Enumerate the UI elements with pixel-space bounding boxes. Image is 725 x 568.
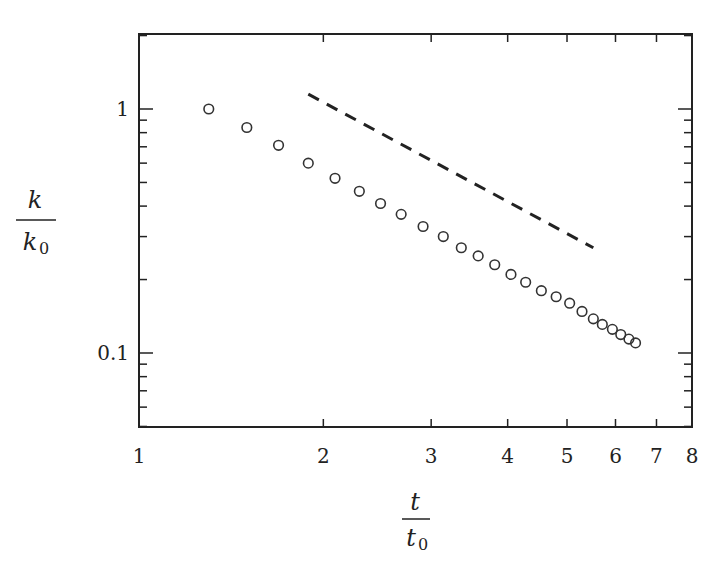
x-tick-label: 6 xyxy=(609,444,622,468)
data-point-marker xyxy=(418,222,428,232)
data-point-marker xyxy=(598,320,608,330)
data-point-marker xyxy=(204,104,214,114)
data-point-marker xyxy=(396,210,406,220)
y-axis-label: k k 0 xyxy=(16,186,56,258)
x-tick-label: 8 xyxy=(686,444,699,468)
chart: 1234567810.1 k k 0 t t 0 xyxy=(0,0,725,568)
data-point-marker xyxy=(537,286,547,296)
reference-dashed-line xyxy=(308,94,593,248)
data-point-marker xyxy=(521,277,531,287)
x-tick-label: 3 xyxy=(425,444,438,468)
x-tick-label: 2 xyxy=(317,444,330,468)
tick-labels: 1234567810.1 xyxy=(97,97,698,468)
data-point-marker xyxy=(506,270,516,280)
x-axis-label: t t 0 xyxy=(402,488,430,554)
y-label-numerator: k xyxy=(28,186,43,214)
y-tick-label: 1 xyxy=(116,97,129,121)
y-label-denominator: k xyxy=(23,228,38,256)
data-point-marker xyxy=(438,232,448,242)
y-tick-label: 0.1 xyxy=(97,341,129,365)
data-point-marker xyxy=(274,140,284,150)
x-tick-label: 4 xyxy=(501,444,514,468)
y-label-denominator-sub: 0 xyxy=(39,239,49,258)
dashed-reference-line xyxy=(308,94,593,248)
plot-frame xyxy=(139,34,692,427)
x-tick-label: 7 xyxy=(650,444,663,468)
data-point-marker xyxy=(589,314,599,324)
data-point-marker xyxy=(577,307,587,317)
data-point-marker xyxy=(242,123,252,133)
axis-ticks xyxy=(139,34,692,427)
x-tick-label: 5 xyxy=(561,444,574,468)
data-point-marker xyxy=(551,292,561,302)
data-point-marker xyxy=(355,186,365,196)
data-point-marker xyxy=(490,260,500,270)
data-point-marker xyxy=(473,251,483,261)
x-label-denominator-sub: 0 xyxy=(418,535,428,554)
data-point-marker xyxy=(565,298,575,308)
data-point-marker xyxy=(303,158,313,168)
x-tick-label: 1 xyxy=(133,444,146,468)
data-point-marker xyxy=(330,173,340,183)
x-label-denominator: t xyxy=(406,524,416,552)
data-point-marker xyxy=(456,243,466,253)
x-label-numerator: t xyxy=(410,488,420,516)
data-point-marker xyxy=(376,199,386,209)
data-points xyxy=(204,104,640,348)
